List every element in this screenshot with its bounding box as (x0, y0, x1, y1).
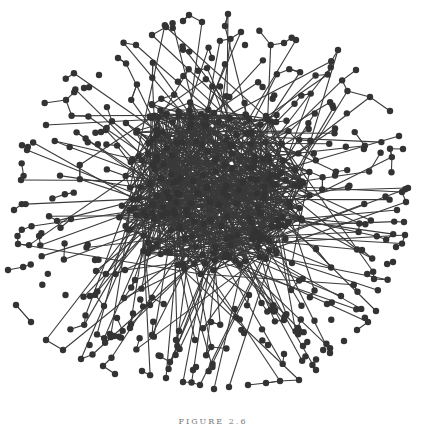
graph-node (68, 113, 74, 119)
graph-node (369, 255, 375, 261)
graph-node (71, 189, 77, 195)
graph-node (81, 85, 87, 91)
graph-node (157, 107, 163, 113)
graph-node (180, 73, 186, 79)
graph-node (108, 355, 114, 361)
graph-node (41, 100, 47, 106)
graph-node (394, 207, 400, 213)
graph-node (62, 191, 68, 197)
graph-node (190, 367, 196, 373)
graph-node (291, 100, 297, 106)
graph-node (390, 259, 396, 265)
graph-node (203, 76, 209, 82)
graph-node (378, 139, 384, 145)
graph-node (384, 277, 390, 283)
graph-node (84, 241, 90, 247)
graph-node (147, 113, 153, 119)
graph-node (353, 306, 359, 312)
graph-node (200, 325, 206, 331)
graph-node (205, 148, 211, 154)
graph-node (104, 166, 110, 172)
graph-node (199, 19, 205, 25)
graph-node (225, 11, 231, 17)
graph-node (89, 351, 95, 357)
graph-node (311, 318, 317, 324)
graph-node (166, 249, 172, 255)
graph-node (382, 193, 388, 199)
graph-node (195, 68, 201, 74)
graph-node (234, 232, 240, 238)
graph-node (273, 248, 279, 254)
graph-node (149, 74, 155, 80)
graph-node (215, 118, 221, 124)
graph-node (61, 256, 67, 262)
graph-node (332, 125, 338, 131)
graph-node (176, 328, 182, 334)
graph-node (263, 113, 269, 119)
graph-node (128, 284, 134, 290)
graph-node (118, 334, 124, 340)
graph-node (15, 241, 21, 247)
graph-node (154, 127, 160, 133)
graph-node (186, 12, 192, 18)
graph-edge (347, 91, 370, 97)
graph-node (168, 227, 174, 233)
graph-node (149, 210, 155, 216)
graph-node (28, 261, 34, 267)
graph-node (217, 322, 223, 328)
graph-node (98, 129, 104, 135)
graph-node (229, 150, 235, 156)
graph-node (149, 32, 155, 38)
graph-node (332, 172, 338, 178)
graph-node (217, 38, 223, 44)
graph-node (19, 227, 25, 233)
graph-node (263, 256, 269, 262)
graph-node (20, 264, 26, 270)
graph-node (153, 241, 159, 247)
graph-node (229, 166, 235, 172)
graph-node (263, 380, 269, 386)
graph-node (272, 318, 278, 324)
graph-node (306, 126, 312, 132)
graph-node (150, 319, 156, 325)
graph-node (238, 29, 244, 35)
graph-node (371, 276, 377, 282)
graph-node (237, 316, 243, 322)
graph-node (81, 322, 87, 328)
graph-node (210, 250, 216, 256)
graph-node (158, 175, 164, 181)
graph-node (77, 162, 83, 168)
graph-node (242, 111, 248, 117)
graph-node (237, 262, 243, 268)
graph-node (391, 218, 397, 224)
graph-node (246, 164, 252, 170)
graph-node (328, 58, 334, 64)
graph-node (82, 312, 88, 318)
graph-node (197, 271, 203, 277)
graph-node (261, 183, 267, 189)
graph-node (344, 110, 350, 116)
graph-node (300, 329, 306, 335)
graph-node (128, 159, 134, 165)
graph-node (134, 81, 140, 87)
network-graph (0, 0, 426, 405)
graph-node (232, 306, 238, 312)
graph-node (296, 137, 302, 143)
graph-node (253, 177, 259, 183)
graph-node (390, 231, 396, 237)
graph-node (285, 128, 291, 134)
graph-node (192, 337, 198, 343)
graph-node (176, 113, 182, 119)
graph-node (122, 173, 128, 179)
graph-node (114, 315, 120, 321)
graph-node (258, 300, 264, 306)
graph-node (180, 379, 186, 385)
graph-node (171, 92, 177, 98)
graph-node (254, 234, 260, 240)
graph-node (122, 267, 128, 273)
graph-node (188, 200, 194, 206)
graph-node (293, 37, 299, 43)
graph-node (241, 330, 247, 336)
graph-node (139, 157, 145, 163)
graph-node (121, 295, 127, 301)
